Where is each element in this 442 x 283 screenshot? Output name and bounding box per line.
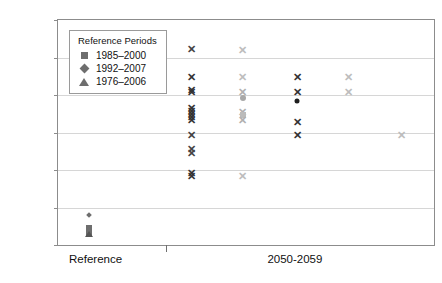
data-point-x: ✕ xyxy=(293,72,302,83)
x-tick-mark xyxy=(166,245,167,252)
data-point-x: ✕ xyxy=(344,72,353,83)
data-point-x: ✕ xyxy=(187,72,196,83)
y-tick-mark xyxy=(54,245,58,246)
x-tick-label: 2050-2059 xyxy=(235,253,355,265)
data-point-x: ✕ xyxy=(187,148,196,159)
data-point-x: ✕ xyxy=(293,116,302,127)
data-point-x: ✕ xyxy=(397,130,406,141)
gridline xyxy=(58,133,434,134)
legend-entries: 1985–20001992–20071976–2006 xyxy=(77,49,157,88)
y-tick-mark xyxy=(54,58,58,59)
legend-entry-label: 1985–2000 xyxy=(96,50,146,61)
data-point-x: ✕ xyxy=(187,130,196,141)
cropped-title-strip xyxy=(0,0,442,9)
data-point-x: ✕ xyxy=(293,87,302,98)
plot-area: 0123456 ✕✕✕✕✕✕✕✕✕✕✕✕✕✕✕✕✕✕✕✕✕✕✕✕✕✕✕ Refe… xyxy=(57,19,435,246)
data-point-x: ✕ xyxy=(238,171,247,182)
y-tick-mark xyxy=(54,95,58,96)
y-tick-mark xyxy=(54,170,58,171)
data-point-x: ✕ xyxy=(187,44,196,55)
data-point-x: ✕ xyxy=(187,87,196,98)
data-point-x: ✕ xyxy=(238,71,247,82)
data-point-x: ✕ xyxy=(187,170,196,181)
figure: Temperature Difference (°F) 0123456 ✕✕✕✕… xyxy=(0,0,442,283)
data-point-triangle xyxy=(85,231,93,237)
legend-entry: 1992–2007 xyxy=(77,62,157,75)
legend-title: Reference Periods xyxy=(78,35,157,46)
y-tick-mark xyxy=(54,20,58,21)
data-point-x: ✕ xyxy=(344,87,353,98)
square-marker-icon xyxy=(77,52,91,59)
legend-entry-label: 1992–2007 xyxy=(96,63,146,74)
data-point-x: ✕ xyxy=(238,44,247,55)
y-tick-mark xyxy=(54,133,58,134)
gridline xyxy=(58,208,434,209)
data-point-x: ✕ xyxy=(187,114,196,125)
data-point-diamond xyxy=(86,212,92,218)
legend-entry-label: 1976–2006 xyxy=(96,76,146,87)
legend-entry: 1976–2006 xyxy=(77,75,157,88)
legend-entry: 1985–2000 xyxy=(77,49,157,62)
data-point-x: ✕ xyxy=(293,129,302,140)
data-point-x: ✕ xyxy=(238,115,247,126)
x-tick-label: Reference xyxy=(36,253,156,265)
legend: Reference Periods 1985–20001992–20071976… xyxy=(69,30,167,94)
y-tick-mark xyxy=(54,208,58,209)
data-point-circle xyxy=(240,95,246,101)
data-point-circle xyxy=(295,98,300,103)
diamond-marker-icon xyxy=(77,65,91,72)
triangle-marker-icon xyxy=(77,78,91,86)
